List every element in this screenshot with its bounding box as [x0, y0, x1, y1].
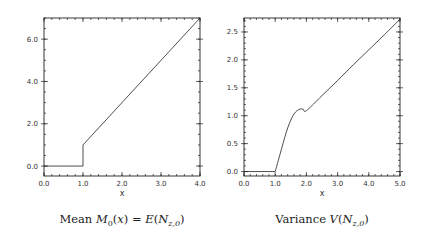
- x-tick-label: 2.0: [301, 180, 312, 188]
- y-tick-label: 2.0: [227, 56, 238, 64]
- x-tick-label: 1.0: [270, 180, 281, 188]
- y-tick-label: 2.0: [27, 120, 38, 128]
- y-tick-label: 1.5: [227, 84, 238, 92]
- y-tick-label: 0.0: [27, 163, 38, 171]
- y-tick-label: 4.0: [27, 78, 38, 86]
- mean-chart-panel: 0.01.02.03.04.00.02.04.06.0xMean M0(x) =…: [27, 18, 206, 228]
- variance-chart-panel: 0.01.02.03.04.05.00.00.51.01.52.02.5xVar…: [227, 18, 406, 228]
- x-tick-label: 3.0: [332, 180, 343, 188]
- variance-caption: Variance V(Nz,0): [274, 212, 369, 228]
- x-tick-label: 4.0: [363, 180, 374, 188]
- y-tick-label: 0.5: [227, 140, 238, 148]
- x-tick-label: 3.0: [155, 180, 166, 188]
- y-tick-label: 0.0: [227, 168, 238, 176]
- variance-series-line: [244, 19, 400, 171]
- mean-series-line: [44, 18, 200, 166]
- x-tick-label: 1.0: [77, 180, 88, 188]
- variance-plot-frame: [244, 18, 400, 176]
- mean-plot-frame: [44, 18, 200, 176]
- x-tick-label: 0.0: [38, 180, 49, 188]
- mean-caption: Mean M0(x) = E(Nz,0): [59, 212, 184, 228]
- x-axis-label: x: [320, 189, 325, 198]
- y-tick-label: 1.0: [227, 112, 238, 120]
- y-tick-label: 2.5: [227, 28, 238, 36]
- x-tick-label: 5.0: [394, 180, 405, 188]
- x-axis-label: x: [120, 189, 125, 198]
- x-tick-label: 0.0: [238, 180, 249, 188]
- x-tick-label: 4.0: [194, 180, 205, 188]
- y-tick-label: 6.0: [27, 36, 38, 44]
- chart-figure: 0.01.02.03.04.00.02.04.06.0xMean M0(x) =…: [0, 0, 425, 236]
- x-tick-label: 2.0: [116, 180, 127, 188]
